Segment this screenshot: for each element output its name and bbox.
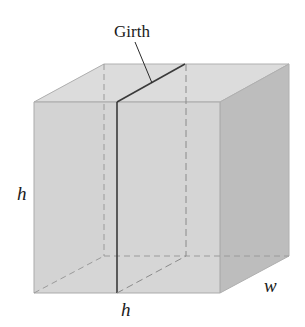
width-label: w (264, 275, 277, 296)
front-face (34, 102, 220, 293)
right-face (220, 64, 289, 293)
box-girth-diagram: Girth h h w (0, 0, 305, 327)
girth-label: Girth (114, 22, 150, 41)
height-label-left: h (17, 183, 27, 204)
height-label-bottom: h (121, 299, 131, 320)
